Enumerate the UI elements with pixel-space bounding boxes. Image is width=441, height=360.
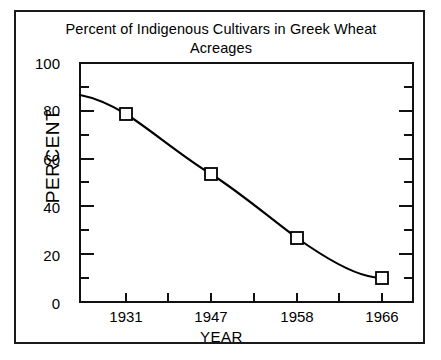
data-point-1931 [120,108,132,120]
data-point-1958 [291,232,303,244]
y-axis-right-minor-ticks [404,87,413,278]
chart-canvas [16,12,427,346]
x-axis-ticks [126,293,382,302]
y-axis-minor-ticks [80,87,89,278]
plot-frame [80,63,413,302]
data-point-1947 [205,168,217,180]
data-markers [120,108,388,284]
data-point-1966 [376,272,388,284]
figure-border: Percent of Indigenous Cultivars in Greek… [14,10,425,344]
plot-area: PERCENT YEAR 100 80 60 40 20 0 1931 1947… [16,12,427,346]
data-line [80,95,382,278]
y-axis-right-major-ticks [399,111,413,302]
